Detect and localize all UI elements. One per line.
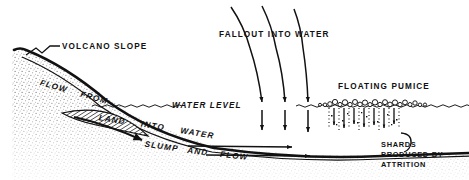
label-floating-pumice: FLOATING PUMICE [338,82,430,91]
pumice-clast [362,100,367,105]
pumice-clast [388,102,393,107]
fallout-arrow-3-lower [303,48,308,102]
pumice-clast [348,102,352,106]
label-shards-line3: ATTRITION [381,160,426,169]
pumice-clast [403,100,408,105]
label-fallout-into-water: FALLOUT INTO WATER [219,30,329,39]
pumice-clast [319,103,322,106]
pumice-clast [392,100,397,105]
label-shards-line2: PRODUCED BY [381,150,443,159]
fallout-arrows-group [231,6,308,132]
water-level-surface [92,105,469,107]
shard-trails-group [329,108,399,131]
pumice-clast [338,102,342,106]
volcano-pumice-diagram: VOLCANO SLOPE FLOW FROM LAND INTO WATER … [0,0,469,180]
fallout-arrow-1 [231,7,250,48]
pumice-clast [413,101,417,105]
pumice-clast [328,102,333,107]
label-water-level: WATER LEVEL [172,101,242,110]
pumice-clast [358,102,363,107]
pumice-clast [332,99,337,104]
pumice-clast [323,103,327,107]
fallout-arrow-2-lower [276,48,285,102]
pumice-clast [398,102,402,106]
fallout-arrow-1-lower [250,48,262,102]
seafloor-arrow-upper [188,146,292,147]
label-volcano-slope: VOLCANO SLOPE [62,42,147,51]
pumice-clast [383,100,388,105]
pumice-clast [372,100,377,105]
pumice-clast [368,103,372,107]
diagram-canvas: VOLCANO SLOPE FLOW FROM LAND INTO WATER … [0,0,469,180]
pumice-clast [378,102,382,106]
pumice-clast [342,100,347,105]
label-shards-line1: SHARDS [381,140,416,149]
pumice-clast [353,100,358,105]
pumice-clast [418,103,422,107]
floating-pumice-group [319,99,427,106]
fallout-arrow-2 [262,6,276,48]
pumice-clast [423,103,426,106]
pumice-clast [408,103,412,107]
fallout-arrow-3 [294,9,303,48]
